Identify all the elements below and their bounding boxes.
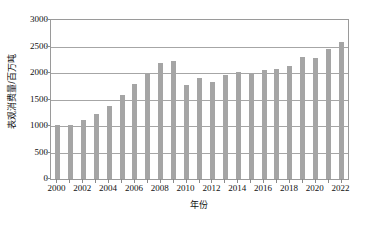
bar xyxy=(274,69,279,180)
x-tick-mark xyxy=(328,179,329,183)
y-axis-title-text: 表观消费量/百万吨 xyxy=(8,54,17,129)
bar xyxy=(197,78,202,179)
x-tick-label: 2022 xyxy=(332,184,350,193)
x-tick-label: 2008 xyxy=(151,184,169,193)
x-tick-mark xyxy=(121,179,122,183)
bar xyxy=(158,63,163,179)
x-tick-mark xyxy=(147,179,148,183)
x-tick-label: 2006 xyxy=(125,184,143,193)
x-tick-label: 2002 xyxy=(73,184,91,193)
x-tick-mark xyxy=(95,179,96,183)
bar xyxy=(300,57,305,179)
x-tick-label: 2012 xyxy=(202,184,220,193)
x-tick-label: 2014 xyxy=(228,184,246,193)
x-tick-mark xyxy=(173,179,174,183)
bar xyxy=(262,70,267,179)
bar xyxy=(120,95,125,179)
bar xyxy=(249,73,254,179)
x-tick-label: 2004 xyxy=(99,184,117,193)
bar xyxy=(339,42,344,179)
bar xyxy=(68,125,73,179)
plot-area xyxy=(50,19,349,180)
bar xyxy=(326,49,331,179)
bar xyxy=(81,120,86,179)
bar xyxy=(223,75,228,179)
x-axis-title: 年份 xyxy=(50,201,347,210)
bar xyxy=(236,72,241,179)
x-axis-tick-labels: 2000200220042006200820102012201420162018… xyxy=(0,184,365,198)
bar-series xyxy=(51,20,348,179)
x-tick-mark xyxy=(199,179,200,183)
bar xyxy=(107,106,112,179)
bar xyxy=(313,58,318,179)
x-tick-mark xyxy=(250,179,251,183)
x-tick-mark xyxy=(302,179,303,183)
bar xyxy=(210,82,215,179)
x-tick-label: 2016 xyxy=(254,184,272,193)
bar xyxy=(55,125,60,179)
x-tick-mark xyxy=(224,179,225,183)
bar-chart-figure: 表观消费量/百万吨 050010001500200025003000 20002… xyxy=(0,0,365,229)
bar xyxy=(184,85,189,179)
bar xyxy=(287,66,292,179)
x-tick-label: 2018 xyxy=(280,184,298,193)
bar xyxy=(132,84,137,179)
x-tick-mark xyxy=(276,179,277,183)
x-tick-label: 2020 xyxy=(306,184,324,193)
bar xyxy=(171,61,176,179)
x-tick-label: 2010 xyxy=(177,184,195,193)
bar xyxy=(145,74,150,179)
x-tick-label: 2000 xyxy=(47,184,65,193)
x-tick-mark xyxy=(69,179,70,183)
bar xyxy=(94,114,99,179)
